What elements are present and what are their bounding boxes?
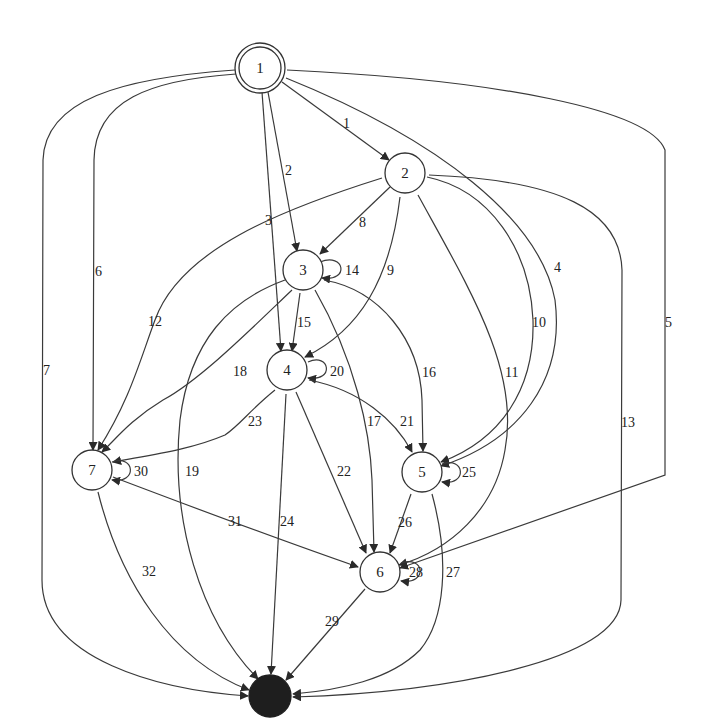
node-2: 2 [385,153,425,193]
node-label: 2 [401,165,409,181]
state-transition-graph: 1 2 3 4 5 6 7 8 9 10 11 12 13 14 15 16 1… [0,0,704,726]
edge-label: 19 [185,464,199,479]
edge-label: 23 [248,414,262,429]
edge-1 [282,82,389,160]
node-7: 7 [72,450,112,490]
edge-label: 6 [95,264,102,279]
node-label: 5 [418,464,426,480]
edge-label: 30 [134,464,148,479]
edge-label: 26 [398,515,412,530]
edge-label: 21 [400,414,414,429]
edge-label: 18 [233,364,247,379]
node-6: 6 [360,552,400,592]
edge-29 [286,589,365,680]
edge-11 [399,195,508,565]
edge-label: 13 [621,415,635,430]
edge-4 [286,78,556,466]
edge-12 [98,178,382,450]
edge-label: 20 [330,364,344,379]
edge-10 [427,177,533,462]
edge-label: 11 [505,365,518,380]
edge-label: 17 [367,414,381,429]
node-final [249,675,291,717]
edge-label: 3 [265,213,272,228]
edge-19 [178,280,285,679]
edge-label: 9 [387,263,394,278]
edge-label: 15 [297,315,311,330]
edge-label: 16 [422,365,436,380]
edge-label: 32 [142,564,156,579]
edge-20 [308,360,326,378]
edge-18 [102,290,292,452]
edge-label: 25 [462,465,476,480]
edge-label: 1 [343,116,350,131]
node-label: 3 [299,262,307,278]
edge-25 [442,463,460,483]
edge-6 [93,74,236,450]
edge-13 [293,175,622,697]
edge-8 [320,187,390,254]
edge-24 [271,394,286,674]
edge-label: 27 [446,565,460,580]
edge-27 [293,494,443,694]
edge-labels: 1 2 3 4 5 6 7 8 9 10 11 12 13 14 15 16 1… [43,116,672,629]
edge-label: 5 [665,315,672,330]
edge-21 [309,380,412,452]
edge-label: 2 [285,163,292,178]
node-5: 5 [402,452,442,492]
node-4: 4 [267,350,307,390]
edge-label: 10 [532,315,546,330]
edge-label: 31 [228,514,242,529]
edge-label: 8 [359,215,366,230]
node-label: 4 [283,362,291,378]
edge-label: 22 [337,464,351,479]
edge-22 [296,392,366,553]
node-label: 6 [376,564,384,580]
edge-label: 4 [554,260,561,275]
node-1: 1 [235,43,285,93]
edge-label: 28 [409,565,423,580]
node-3: 3 [283,250,323,290]
edge-label: 24 [280,514,294,529]
edge-label: 14 [345,263,359,278]
edges [42,70,665,697]
edge-label: 29 [325,614,339,629]
edge-32 [98,492,249,690]
edge-label: 7 [43,363,50,378]
node-label: 1 [256,60,264,76]
edge-label: 12 [148,314,162,329]
node-label: 7 [88,462,96,478]
edge-5 [287,70,665,568]
